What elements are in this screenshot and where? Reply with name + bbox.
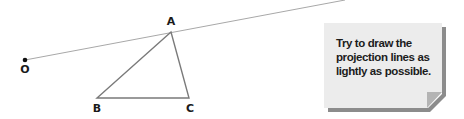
point-o-label: O	[20, 64, 29, 75]
vertex-b-label: B	[93, 103, 101, 114]
note-line: projection lines as	[336, 50, 440, 64]
folded-corner-icon	[427, 92, 442, 108]
note-line: Try to draw the	[336, 36, 440, 50]
point-o-dot	[23, 58, 28, 63]
vertex-c-label: C	[186, 103, 194, 114]
tip-note: Try to draw the projection lines as ligh…	[324, 23, 442, 109]
diagram-canvas: O A B C Try to draw the projection lines…	[0, 0, 464, 119]
projection-line	[25, 0, 345, 60]
note-line: lightly as possible.	[336, 64, 440, 78]
triangle-abc	[97, 32, 189, 98]
vertex-a-label: A	[167, 16, 176, 27]
note-text: Try to draw the projection lines as ligh…	[336, 36, 440, 78]
